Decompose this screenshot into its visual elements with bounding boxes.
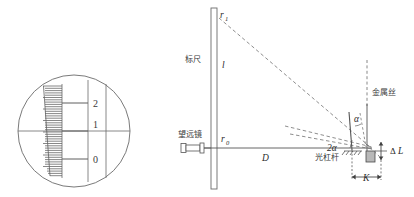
- telescope-view-group: 2 1 0: [18, 75, 130, 187]
- scale-number-2: 2: [93, 98, 98, 109]
- label-reading-r0: r 0: [221, 134, 230, 146]
- label-reading-r1-sub: 1: [225, 15, 228, 22]
- mirror-normal-dashed: [360, 113, 366, 147]
- label-reading-r1-main: r: [220, 10, 224, 20]
- scale-number-1: 1: [93, 119, 98, 130]
- ray-r1-to-mirror: [219, 18, 369, 146]
- label-metal-wire: 金属丝: [372, 87, 396, 97]
- label-distance-D: D: [261, 153, 269, 163]
- label-reading-r0-sub: 0: [226, 139, 230, 146]
- label-scale-ruler: 标尺: [185, 54, 201, 64]
- standard-ruler-bar: [211, 8, 217, 189]
- label-angle-alpha: α: [354, 114, 360, 124]
- label-reading-r0-main: r: [221, 134, 225, 144]
- label-delta-L-symbol: Δ: [390, 146, 396, 156]
- label-optical-lever: 光杠杆: [315, 152, 339, 162]
- figure-root: 2 1 0: [0, 0, 414, 197]
- optical-lever-group: 标尺 l r 1 r 0 望远镜 D 2α α 光杠杆: [178, 8, 403, 189]
- label-angle-two-alpha: 2α: [327, 143, 338, 153]
- label-delta-L-letter: L: [397, 146, 403, 156]
- label-delta-L: Δ L: [390, 146, 403, 156]
- angle-arc-alpha: [355, 124, 361, 126]
- delta-L-dimension: [375, 142, 387, 160]
- wire-clamp-block: [366, 151, 375, 162]
- label-segment-l: l: [222, 60, 225, 70]
- telescope-icon: [181, 143, 211, 153]
- scale-number-0: 0: [93, 154, 98, 165]
- label-lever-arm-K: K: [362, 173, 370, 183]
- label-telescope: 望远镜: [178, 129, 202, 139]
- physics-diagram-svg: 2 1 0: [0, 0, 414, 197]
